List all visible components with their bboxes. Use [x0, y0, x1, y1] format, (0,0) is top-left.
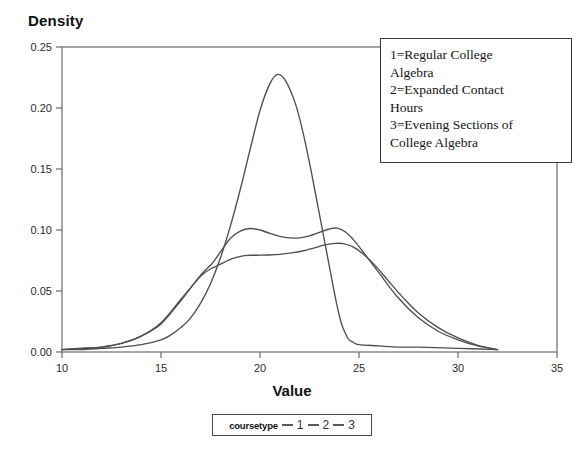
legend-series-2: 2: [323, 418, 330, 432]
x-tick-label: 25: [353, 362, 365, 374]
legend-note-box: 1=Regular College Algebra 2=Expanded Con…: [380, 38, 572, 163]
x-tick-label: 35: [551, 362, 563, 374]
y-tick-label: 0.15: [31, 163, 52, 175]
x-tick-label: 10: [56, 362, 68, 374]
coursetype-legend-label: coursetype: [229, 420, 278, 431]
legend-dash-icon: [333, 424, 344, 426]
legend-note-line-5: College Algebra: [390, 134, 562, 152]
legend-note-line-3: Hours: [390, 99, 562, 117]
legend-dash-icon: [308, 424, 319, 426]
y-tick-label: 0.20: [31, 102, 52, 114]
y-tick-label: 0.05: [31, 285, 52, 297]
x-axis-title: Value: [0, 382, 584, 399]
legend-series-3: 3: [348, 418, 355, 432]
legend-note-line-0: 1=Regular College: [390, 46, 562, 64]
chart-root: Density 0.000.050.100.150.200.2510152025…: [0, 0, 584, 462]
legend-note-line-2: 2=Expanded Contact: [390, 81, 562, 99]
y-tick-label: 0.00: [31, 346, 52, 358]
legend-series-1: 1: [297, 418, 304, 432]
legend-note-line-4: 3=Evening Sections of: [390, 116, 562, 134]
x-tick-label: 20: [254, 362, 266, 374]
x-tick-label: 30: [452, 362, 464, 374]
coursetype-legend: coursetype 1 2 3: [212, 414, 372, 436]
y-tick-label: 0.25: [31, 41, 52, 53]
legend-note-line-1: Algebra: [390, 64, 562, 82]
legend-dash-icon: [282, 424, 293, 426]
density-curve-2: [62, 228, 498, 350]
y-tick-label: 0.10: [31, 224, 52, 236]
density-curve-3: [62, 243, 498, 349]
x-tick-label: 15: [155, 362, 167, 374]
